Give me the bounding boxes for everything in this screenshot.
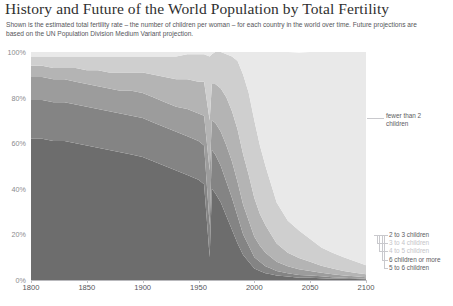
annotation-fewer-than-2: fewer than 2 children xyxy=(386,112,438,129)
x-axis-tick xyxy=(366,280,367,283)
y-axis-tick-label: 60% xyxy=(12,139,26,148)
x-axis-tick xyxy=(31,280,32,283)
legend-label: 2 to 3 children xyxy=(389,231,429,239)
stacked-area-svg xyxy=(31,52,366,280)
legend-leader-line xyxy=(384,268,388,269)
plot-area xyxy=(31,52,366,280)
x-axis-tick xyxy=(254,280,255,283)
page-title: History and Future of the World Populati… xyxy=(5,0,445,18)
x-axis-tick-label: 2000 xyxy=(246,283,263,292)
x-axis-tick-label: 2050 xyxy=(302,283,319,292)
x-axis-tick-label: 1850 xyxy=(78,283,95,292)
leader-line-fewer-than-2 xyxy=(367,118,384,119)
legend-leader-stem xyxy=(382,235,383,260)
chart-subtitle: Shown is the estimated total fertility r… xyxy=(6,20,421,38)
x-axis-tick-label: 2100 xyxy=(358,283,375,292)
x-axis-tick-label: 1800 xyxy=(23,283,40,292)
legend-label: 6 children or more xyxy=(389,256,441,264)
legend-label: 4 to 5 children xyxy=(389,247,429,255)
x-axis-tick xyxy=(143,280,144,283)
x-axis-tick xyxy=(199,280,200,283)
legend-label: 3 to 4 children xyxy=(389,239,429,247)
legend-leader-stem xyxy=(384,235,385,268)
legend-leader-stem xyxy=(377,235,378,243)
x-axis-tick xyxy=(310,280,311,283)
x-axis-tick-label: 1950 xyxy=(190,283,207,292)
y-axis-tick-label: 40% xyxy=(12,184,26,193)
y-axis-labels: 0%20%40%60%80%100% xyxy=(0,52,28,280)
chart-root: History and Future of the World Populati… xyxy=(0,0,453,306)
legend-label: 5 to 6 children xyxy=(389,264,429,272)
y-axis-tick-label: 80% xyxy=(12,93,26,102)
x-axis-tick xyxy=(87,280,88,283)
y-axis-tick-label: 100% xyxy=(8,48,26,57)
x-axis-labels: 1800185019001950200020502100 xyxy=(0,283,453,297)
x-axis-tick-label: 1900 xyxy=(134,283,151,292)
y-axis-tick-label: 20% xyxy=(12,230,26,239)
legend-leader-stem xyxy=(379,235,380,251)
